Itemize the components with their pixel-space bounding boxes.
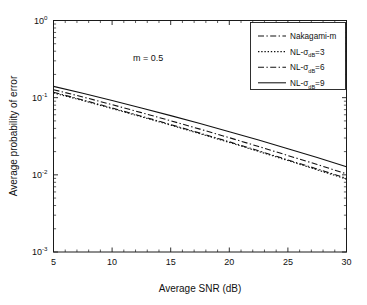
legend-label-NL-sigma-dB-6[interactable]: NL-σdB=6 [290,63,325,74]
x-tick-label: 20 [224,257,234,267]
x-tick-label: 15 [166,257,176,267]
y-axis-tick-labels: 10010-110-210-3 [32,14,48,258]
plot-canvas: 51015202530 10010-110-210-3 m = 0.5 Aver… [0,0,367,305]
x-tick-label: 5 [51,257,56,267]
y-tick-label: 10-1 [32,91,48,103]
chart-figure: 51015202530 10010-110-210-3 m = 0.5 Aver… [0,0,367,305]
data-curves [54,86,347,179]
x-tick-label: 10 [107,257,117,267]
legend-label-Nakagami-m[interactable]: Nakagami-m [290,32,337,41]
annotation-m-value: m = 0.5 [133,53,163,63]
x-axis-tick-labels: 51015202530 [51,257,352,267]
legend[interactable]: Nakagami-mNL-σdB=3NL-σdB=6NL-σdB=9 [251,23,346,90]
x-tick-label: 30 [341,257,351,267]
x-tick-label: 25 [283,257,293,267]
curve-NL-sigma-dB-9 [54,86,347,166]
y-axis-title: Average probability of error [8,75,19,196]
x-axis-title: Average SNR (dB) [159,283,242,294]
curve-NL-sigma-dB-3 [54,93,347,179]
y-tick-label: 10-3 [32,245,48,257]
y-tick-label: 100 [34,14,48,26]
y-tick-label: 10-2 [32,168,48,180]
curve-NL-sigma-dB-6 [54,90,347,174]
